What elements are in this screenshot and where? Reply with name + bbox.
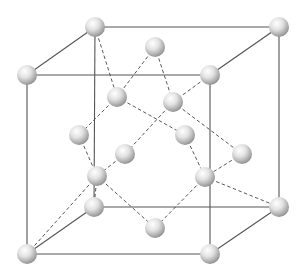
atom-sphere [107, 87, 127, 107]
bond-line [205, 177, 279, 207]
atom-sphere [85, 17, 105, 37]
cube-edge [210, 207, 279, 254]
bond-line [125, 102, 173, 154]
atom-sphere [232, 144, 252, 164]
atom-sphere [163, 92, 183, 112]
atom-sphere [145, 37, 165, 57]
atom-sphere [69, 125, 89, 145]
atom-sphere [195, 167, 215, 187]
atom-sphere [175, 125, 195, 145]
lattice-canvas [0, 0, 300, 280]
crystal-structure-diagram [0, 0, 300, 280]
atom-sphere [269, 197, 289, 217]
atom-sphere [200, 244, 220, 264]
atoms [17, 17, 289, 264]
cube-edge [27, 207, 94, 254]
atom-sphere [269, 17, 289, 37]
atom-sphere [17, 65, 37, 85]
bond-line [97, 176, 155, 228]
bond-line [95, 27, 117, 97]
bond-line [27, 176, 97, 254]
atom-sphere [115, 144, 135, 164]
atom-sphere [145, 218, 165, 238]
cube-edge [27, 27, 95, 75]
atom-sphere [17, 244, 37, 264]
atom-sphere [87, 166, 107, 186]
atom-sphere [200, 65, 220, 85]
bond-line [155, 177, 205, 228]
atom-sphere [84, 197, 104, 217]
cube-edge [210, 27, 279, 75]
